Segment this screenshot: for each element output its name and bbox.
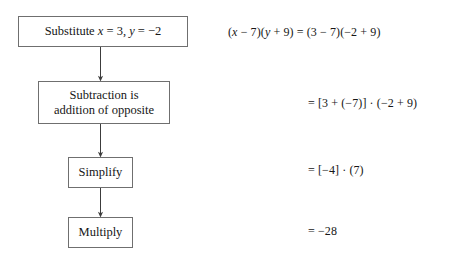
flowchart-node-substitute: Substitute x = 3, y = −2 <box>18 16 188 47</box>
flowchart-node-multiply-label: Multiply <box>75 225 127 240</box>
equation-step-4: = −28 <box>308 224 337 239</box>
flowchart-node-subtraction-label: Subtraction is addition of opposite <box>50 88 158 118</box>
equation-step-3: = [−4] · (7) <box>308 163 364 178</box>
flowchart-node-simplify-label: Simplify <box>75 165 127 180</box>
flowchart-node-subtraction: Subtraction is addition of opposite <box>38 81 170 124</box>
flowchart-node-simplify: Simplify <box>68 157 133 188</box>
flowchart-node-substitute-label: Substitute x = 3, y = −2 <box>41 24 166 39</box>
equation-step-2: = [3 + (−7)] · (−2 + 9) <box>308 96 417 111</box>
equation-step-1: (x − 7)(y + 9) = (3 − 7)(−2 + 9) <box>228 25 380 40</box>
flowchart-figure: Substitute x = 3, y = −2 Subtraction is … <box>0 0 452 264</box>
flowchart-node-multiply: Multiply <box>68 217 133 248</box>
